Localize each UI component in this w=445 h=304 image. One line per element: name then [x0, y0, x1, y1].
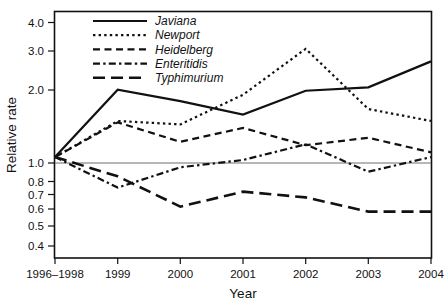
x-axis-title: Year: [229, 286, 257, 301]
legend-label-enteritidis: Enteritidis: [155, 57, 208, 71]
x-tick-label: 2002: [293, 268, 319, 280]
y-tick-label: 0.8: [28, 176, 44, 188]
x-tick-label: 2001: [230, 268, 256, 280]
y-tick-label: 0.5: [28, 220, 44, 232]
x-tick-label: 1996–1998: [26, 268, 84, 280]
y-tick-label: 0.6: [28, 203, 44, 215]
x-tick-label: 2003: [356, 268, 382, 280]
x-tick-label: 2000: [168, 268, 194, 280]
y-tick-label: 4.0: [28, 17, 44, 29]
legend-label-heidelberg: Heidelberg: [155, 43, 213, 57]
x-tick-label: 2004: [418, 268, 444, 280]
y-tick-label: 0.4: [28, 240, 45, 252]
y-axis-title: Relative rate: [4, 97, 19, 173]
y-tick-label: 1.0: [28, 157, 44, 169]
y-tick-label: 0.7: [28, 189, 44, 201]
chart-figure: 4.0 3.0 2.0 1.0 0.8 0.7 0.6 0.5 0.4 1996…: [0, 0, 445, 304]
y-tick-label: 2.0: [28, 84, 44, 96]
legend-label-newport: Newport: [155, 28, 200, 42]
legend-label-javiana: Javiana: [154, 14, 197, 28]
legend-label-typhimurium: Typhimurium: [155, 71, 223, 85]
relative-rate-line-chart: 4.0 3.0 2.0 1.0 0.8 0.7 0.6 0.5 0.4 1996…: [0, 0, 445, 304]
x-tick-label: 1999: [105, 268, 131, 280]
y-tick-label: 3.0: [28, 45, 44, 57]
